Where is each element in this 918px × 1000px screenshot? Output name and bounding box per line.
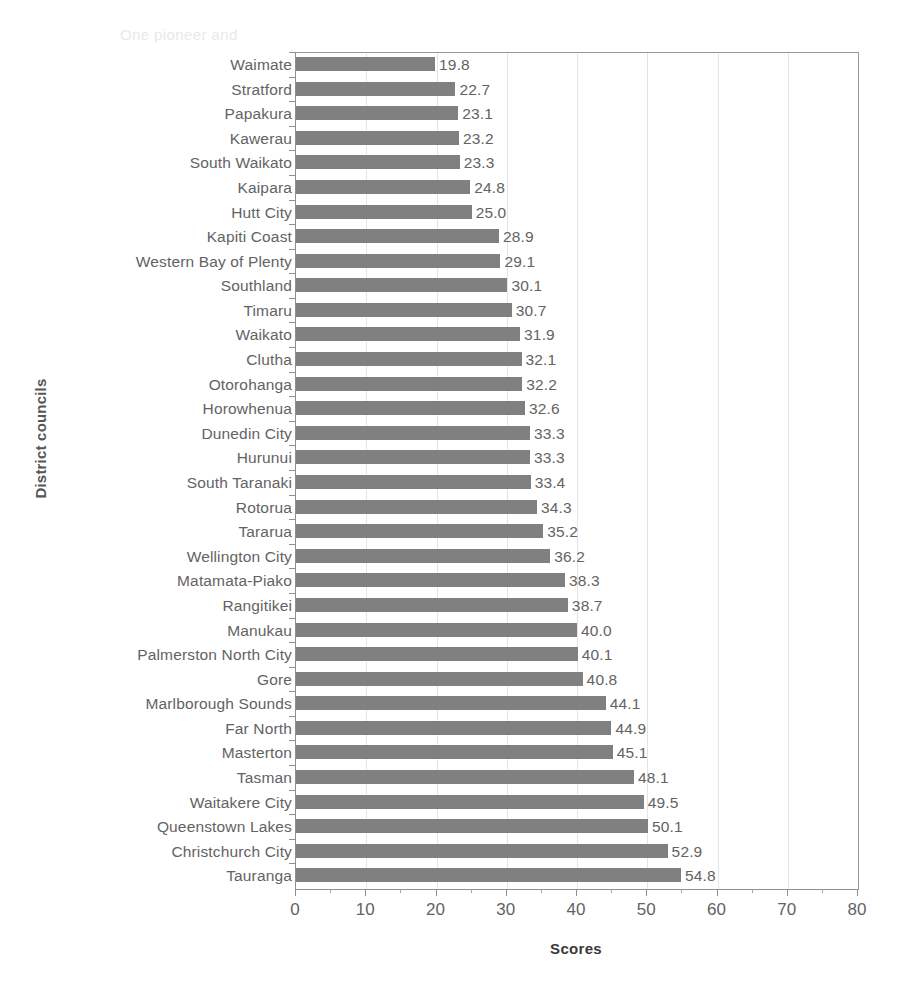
x-axis-tick-label: 10 <box>335 900 395 920</box>
bar <box>296 377 522 391</box>
bar-value-label: 44.1 <box>610 691 641 716</box>
bar-value-label: 34.3 <box>541 495 572 520</box>
x-axis-tick-40 <box>576 889 577 896</box>
bar-value-label: 40.0 <box>581 618 612 643</box>
x-axis-tick-30 <box>506 889 507 896</box>
bar <box>296 598 568 612</box>
category-label: Rotorua <box>236 495 292 520</box>
category-label: Far North <box>225 716 292 741</box>
x-axis-tick-label: 30 <box>476 900 536 920</box>
x-axis-tick-label: 50 <box>616 900 676 920</box>
bar-value-label: 40.1 <box>582 642 613 667</box>
bar-row: Stratford22.7 <box>0 77 918 102</box>
y-axis-tick <box>289 150 295 151</box>
bar <box>296 106 458 120</box>
y-axis-tick <box>289 298 295 299</box>
category-label: Southland <box>221 273 292 298</box>
x-axis-tick-50 <box>646 889 647 896</box>
x-axis-tick-label: 40 <box>546 900 606 920</box>
y-axis-tick <box>289 790 295 791</box>
x-axis-tick-0 <box>295 889 296 896</box>
bar-row: Papakura23.1 <box>0 101 918 126</box>
y-axis-tick <box>289 372 295 373</box>
bar-value-label: 54.8 <box>685 863 716 888</box>
category-label: Waitakere City <box>190 790 292 815</box>
bar-value-label: 35.2 <box>547 519 578 544</box>
x-axis-minor-tick <box>752 889 753 893</box>
y-axis-tick <box>289 716 295 717</box>
y-axis-tick <box>289 421 295 422</box>
y-axis-tick <box>289 618 295 619</box>
bar-value-label: 29.1 <box>504 249 535 274</box>
bar-row: Waikato31.9 <box>0 322 918 347</box>
category-label: Clutha <box>246 347 292 372</box>
bar-row: Masterton45.1 <box>0 740 918 765</box>
x-axis-tick-label: 60 <box>687 900 747 920</box>
bar <box>296 229 499 243</box>
x-axis-tick-label: 70 <box>757 900 817 920</box>
y-axis-tick <box>289 495 295 496</box>
bar <box>296 770 634 784</box>
bar <box>296 696 606 710</box>
category-label: Rangitikei <box>222 593 292 618</box>
bar-value-label: 23.1 <box>462 101 493 126</box>
x-axis-tick-80 <box>857 889 858 896</box>
category-label: Matamata-Piako <box>177 568 292 593</box>
bar <box>296 868 681 882</box>
bar <box>296 721 611 735</box>
bar <box>296 57 435 71</box>
x-axis-minor-tick <box>471 889 472 893</box>
bar-value-label: 52.9 <box>672 839 703 864</box>
bar-row: Far North44.9 <box>0 716 918 741</box>
bar-row: Marlborough Sounds44.1 <box>0 691 918 716</box>
y-axis-tick <box>289 273 295 274</box>
category-label: South Taranaki <box>187 470 292 495</box>
category-label: Gore <box>257 667 292 692</box>
bar-value-label: 28.9 <box>503 224 534 249</box>
y-axis-tick <box>289 839 295 840</box>
bar <box>296 549 550 563</box>
y-axis-tick <box>289 470 295 471</box>
bar-row: Tararua35.2 <box>0 519 918 544</box>
category-label: Tauranga <box>226 863 292 888</box>
bar-value-label: 22.7 <box>459 77 490 102</box>
category-label: Dunedin City <box>201 421 292 446</box>
category-label: Waikato <box>236 322 292 347</box>
x-axis-tick-label: 20 <box>406 900 466 920</box>
bar <box>296 131 459 145</box>
category-label: Hurunui <box>237 445 292 470</box>
bar <box>296 623 577 637</box>
category-label: Queenstown Lakes <box>157 814 292 839</box>
bar-value-label: 23.2 <box>463 126 494 151</box>
x-axis-title: Scores <box>295 940 857 957</box>
bar <box>296 205 472 219</box>
bar <box>296 672 583 686</box>
y-axis-tick <box>289 544 295 545</box>
y-axis-tick <box>289 445 295 446</box>
category-label: Timaru <box>243 298 292 323</box>
x-axis-minor-tick <box>400 889 401 893</box>
bar <box>296 524 543 538</box>
category-label: Horowhenua <box>203 396 292 421</box>
bar-value-label: 32.1 <box>526 347 557 372</box>
y-axis-tick <box>289 765 295 766</box>
bar-row: Southland30.1 <box>0 273 918 298</box>
x-axis-tick-label: 80 <box>827 900 887 920</box>
bar-row: Kawerau23.2 <box>0 126 918 151</box>
bar-row: Otorohanga32.2 <box>0 372 918 397</box>
bar-row: Palmerston North City40.1 <box>0 642 918 667</box>
y-axis-tick <box>289 519 295 520</box>
bar-value-label: 45.1 <box>617 740 648 765</box>
bar-row: South Waikato23.3 <box>0 150 918 175</box>
bar-row: Gore40.8 <box>0 667 918 692</box>
bar-row: Western Bay of Plenty29.1 <box>0 249 918 274</box>
y-axis-tick <box>289 667 295 668</box>
bar-value-label: 44.9 <box>615 716 646 741</box>
bar-value-label: 33.3 <box>534 421 565 446</box>
bar-row: Waitakere City49.5 <box>0 790 918 815</box>
category-label: Kawerau <box>230 126 292 151</box>
bar-row: Tasman48.1 <box>0 765 918 790</box>
y-axis-tick <box>289 568 295 569</box>
bar-row: Rotorua34.3 <box>0 495 918 520</box>
bar <box>296 795 644 809</box>
